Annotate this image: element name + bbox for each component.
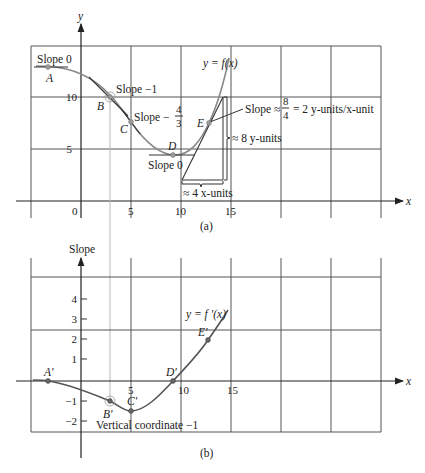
caption-b: (b) — [200, 447, 214, 460]
label-slope-a: Slope 0 — [37, 53, 72, 66]
y-tick-2: 2 — [72, 333, 78, 345]
x-tick-0: 0 — [72, 205, 78, 217]
label-slope-e-den: 4 — [283, 109, 289, 121]
panel-b: Slope x 4 3 2 1 −1 −2 5 10 15 A′ B′ C′ D… — [16, 243, 412, 460]
tangent-e — [182, 97, 223, 180]
point-d — [171, 153, 176, 158]
point-d-prime — [171, 379, 176, 384]
point-a — [46, 65, 51, 70]
label-d-prime: D′ — [165, 366, 177, 378]
y-axis-label-b: Slope — [69, 243, 95, 256]
label-slope-e-suffix: = 2 y-units/x-unit — [293, 103, 374, 116]
point-b — [108, 95, 113, 100]
x-tick-5: 5 — [128, 205, 134, 217]
label-e-prime: E′ — [197, 326, 208, 338]
rise-bracket — [224, 97, 230, 180]
label-slope-e-prefix: Slope ≈ — [245, 103, 280, 116]
label-slope-c-den: 3 — [176, 117, 182, 129]
label-b: B — [97, 100, 104, 112]
label-slope-c-prefix: Slope − — [134, 111, 170, 124]
curve-label-f: y = f(x) — [202, 57, 238, 70]
y-tick-3: 3 — [72, 313, 78, 325]
y-tick-4: 4 — [72, 293, 78, 305]
y-tick-neg2: −2 — [65, 415, 77, 427]
y-tick-1: 1 — [72, 353, 78, 365]
label-slope-e-num: 8 — [283, 95, 289, 107]
point-e — [207, 121, 212, 126]
x-axis-label-b: x — [405, 375, 412, 387]
run-label: ≈ 4 x-units — [183, 187, 233, 199]
label-a: A — [45, 72, 54, 84]
derivative-diagram: y x 0 5 10 15 5 10 Slope 0 — [0, 0, 425, 473]
x-tick-15-b: 15 — [227, 384, 239, 396]
x-tick-10-b: 10 — [178, 384, 190, 396]
label-e: E — [196, 117, 204, 129]
label-slope-b: Slope −1 — [116, 83, 158, 96]
label-c-prime: C′ — [127, 395, 138, 407]
y-ticks-b — [81, 299, 87, 421]
label-d: D — [167, 140, 177, 152]
f-curve — [36, 58, 229, 155]
caption-a: (a) — [200, 220, 213, 233]
x-axis-label-a: x — [405, 195, 412, 207]
rise-label: ≈ 8 y-units — [232, 132, 282, 145]
grid-b — [31, 258, 381, 432]
label-slope-c-num: 4 — [176, 103, 182, 115]
y-tick-neg1: −1 — [65, 395, 77, 407]
label-c: C — [120, 123, 128, 135]
point-a-prime — [46, 379, 51, 384]
y-tick-5: 5 — [67, 143, 73, 155]
label-slope-d: Slope 0 — [148, 159, 183, 172]
point-c-prime — [129, 409, 134, 414]
x-tick-15: 15 — [225, 205, 237, 217]
y-tick-10: 10 — [66, 91, 78, 103]
label-a-prime: A′ — [43, 366, 54, 378]
vertical-coordinate-annotation: Vertical coordinate −1 — [96, 419, 199, 431]
x-tick-10: 10 — [175, 205, 187, 217]
curve-label-f-prime: y = f ′(x) — [185, 308, 226, 321]
point-c — [129, 120, 134, 125]
point-e-prime — [206, 338, 211, 343]
y-axis-label-a: y — [77, 10, 84, 23]
point-b-prime — [108, 399, 113, 404]
